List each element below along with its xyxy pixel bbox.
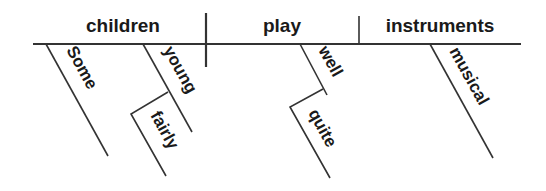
modifier-word-well: well [314, 42, 347, 80]
modifier-word-young: young [160, 43, 201, 97]
modifier-word-fairly: fairly [147, 108, 184, 153]
verb-word: play [263, 15, 301, 36]
sentence-diagram: children play instruments Some young fai… [0, 0, 546, 191]
subject-word: children [86, 15, 160, 36]
modifier-word-musical: musical [446, 44, 493, 109]
object-word: instruments [386, 15, 495, 36]
